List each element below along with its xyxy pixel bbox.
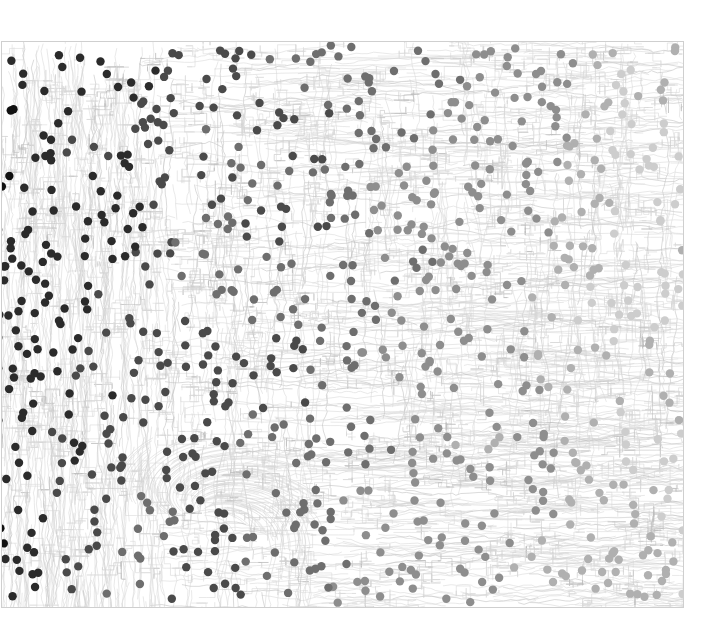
map-frame-overlay: [0, 0, 704, 643]
map-plot-frame: [2, 42, 684, 608]
map-figure: [0, 0, 704, 643]
